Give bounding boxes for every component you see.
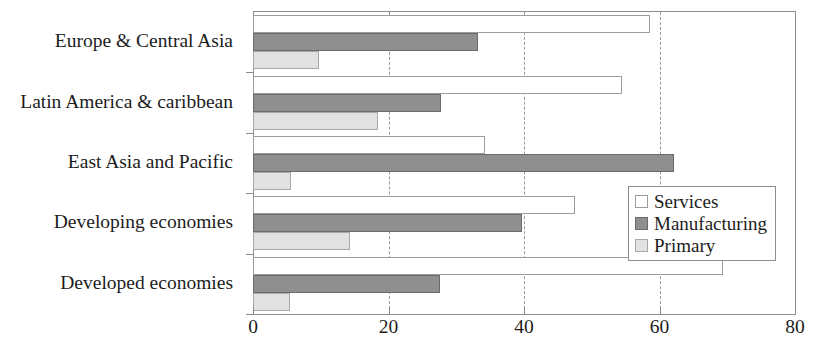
bar-services (253, 15, 650, 33)
category-axis-labels: Europe & Central AsiaLatin America & car… (0, 11, 243, 313)
bar-services (253, 196, 575, 214)
bar-group (253, 133, 795, 193)
bar-manufacturing (253, 33, 478, 51)
legend-swatch-primary-icon (635, 239, 648, 252)
value-tick-80 (795, 307, 796, 314)
bar-group (253, 254, 795, 314)
bar-chart: Europe & Central AsiaLatin America & car… (0, 0, 817, 363)
value-tick-label: 40 (514, 317, 534, 337)
category-tick (246, 193, 253, 194)
bar-manufacturing (253, 94, 441, 112)
category-tick (246, 254, 253, 255)
value-tick-20 (389, 307, 390, 314)
bar-group (253, 72, 795, 132)
bar-group (253, 12, 795, 72)
chart-legend: ServicesManufacturingPrimary (628, 186, 776, 261)
legend-swatch-manufacturing-icon (635, 217, 648, 230)
legend-swatch-services-icon (635, 195, 648, 208)
category-tick (246, 72, 253, 73)
category-tick (246, 133, 253, 134)
bar-services (253, 136, 485, 154)
value-tick-40 (524, 307, 525, 314)
bar-manufacturing (253, 275, 440, 293)
category-tick (246, 314, 253, 315)
bar-primary (253, 51, 319, 69)
legend-label: Services (654, 192, 718, 211)
value-tick-60 (660, 307, 661, 314)
category-label: East Asia and Pacific (0, 152, 233, 172)
category-label: Latin America & caribbean (0, 92, 233, 112)
value-tick-label: 0 (248, 317, 258, 337)
value-tick-label: 60 (650, 317, 670, 337)
legend-label: Manufacturing (654, 214, 767, 233)
category-label: Europe & Central Asia (0, 31, 233, 51)
bars-layer (253, 12, 795, 314)
value-axis: 020406080 (253, 313, 795, 363)
bar-primary (253, 293, 290, 311)
bar-manufacturing (253, 214, 522, 232)
bar-services (253, 76, 622, 94)
value-tick-0 (253, 307, 254, 314)
bar-primary (253, 112, 378, 130)
plot-area (253, 11, 796, 315)
legend-item-services[interactable]: Services (635, 190, 767, 212)
legend-item-manufacturing[interactable]: Manufacturing (635, 212, 767, 234)
legend-label: Primary (654, 236, 715, 255)
legend-item-primary[interactable]: Primary (635, 234, 767, 256)
category-label: Developed economies (0, 273, 233, 293)
value-tick-label: 80 (785, 317, 805, 337)
bar-manufacturing (253, 154, 674, 172)
value-tick-label: 20 (379, 317, 399, 337)
bar-primary (253, 172, 291, 190)
category-label: Developing economies (0, 212, 233, 232)
bar-primary (253, 232, 350, 250)
